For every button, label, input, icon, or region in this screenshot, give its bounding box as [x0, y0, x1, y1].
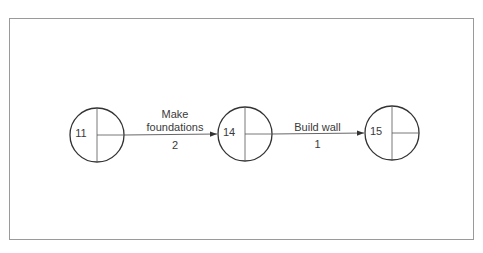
activity-2-duration: 1: [275, 138, 360, 150]
node-15-label: 15: [365, 125, 387, 137]
node-14-label: 14: [218, 126, 240, 138]
activity-1-name-line1: Make: [135, 108, 215, 120]
activity-1-name-line2: foundations: [135, 121, 215, 133]
arrow-14-15: [272, 133, 364, 134]
activity-1-duration: 2: [135, 139, 215, 151]
node-11-label: 11: [70, 127, 92, 139]
arrow-11-14: [124, 134, 217, 135]
activity-2-name: Build wall: [275, 121, 360, 133]
